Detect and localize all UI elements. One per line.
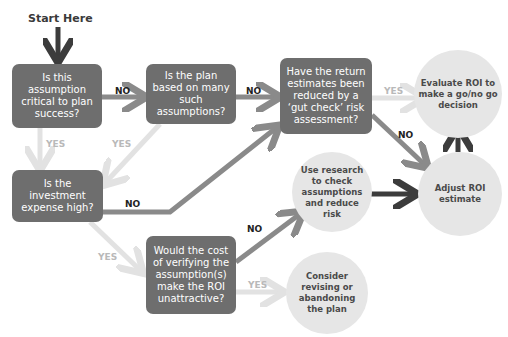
arrow-many-to-expense: [106, 124, 160, 182]
label-no: NO: [246, 86, 261, 96]
decision-investment-expense[interactable]: Is the investment expense high?: [12, 170, 103, 222]
label-yes: YES: [46, 139, 65, 149]
arrow-verify-to-research: [236, 214, 300, 262]
label-yes: YES: [112, 139, 131, 149]
arrow-expense-to-verify: [90, 222, 140, 270]
start-label: Start Here: [28, 12, 93, 25]
decision-critical-assumption[interactable]: Is this assumption critical to plan succ…: [12, 64, 102, 128]
decision-verify-cost[interactable]: Would the cost of verifying the assumpti…: [146, 236, 236, 314]
label-yes: YES: [384, 86, 403, 96]
outcome-use-research[interactable]: Use research to check assumptions and re…: [292, 152, 372, 232]
arrow-gutcheck-to-adjust: [372, 115, 425, 165]
outcome-adjust-roi[interactable]: Adjust ROI estimate: [418, 152, 502, 236]
outcome-revise-plan[interactable]: Consider revising or abandoning the plan: [286, 252, 368, 334]
label-yes: YES: [248, 280, 267, 290]
decision-gut-check[interactable]: Have the return estimates been reduced b…: [280, 58, 372, 134]
outcome-evaluate-roi[interactable]: Evaluate ROI to make a go/no go decision: [414, 50, 502, 138]
decision-many-assumptions[interactable]: Is the plan based on many such assumptio…: [146, 64, 236, 124]
label-no: NO: [125, 199, 140, 209]
label-no: NO: [398, 130, 413, 140]
label-no: NO: [115, 86, 130, 96]
label-no: NO: [247, 224, 262, 234]
label-yes: YES: [98, 252, 117, 262]
